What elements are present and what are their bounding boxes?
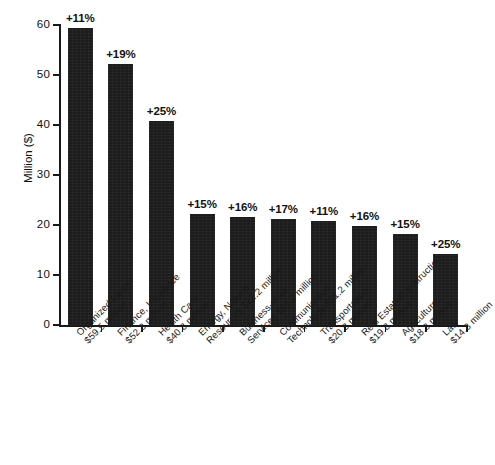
y-tick-mark <box>53 74 60 76</box>
y-tick-label: 20 <box>20 218 50 230</box>
y-tick-mark <box>53 274 60 276</box>
bar-value-label: +25% <box>132 105 192 117</box>
y-tick-mark <box>53 174 60 176</box>
y-tick-mark <box>53 324 60 326</box>
y-tick-label: 30 <box>20 168 50 180</box>
y-tick-mark <box>53 24 60 26</box>
bar-value-label: +19% <box>91 48 151 60</box>
y-tick-label: 0 <box>20 318 50 330</box>
y-tick-mark <box>53 224 60 226</box>
y-tick-label: 50 <box>20 68 50 80</box>
bar-value-label: +11% <box>50 12 110 24</box>
y-tick-label: 10 <box>20 268 50 280</box>
y-axis-title: Million ($) <box>22 98 34 218</box>
y-tick-label: 60 <box>20 18 50 30</box>
bar-value-label: +15% <box>375 218 435 230</box>
y-tick-mark <box>53 124 60 126</box>
bar <box>68 28 93 326</box>
bar-value-label: +25% <box>416 238 476 250</box>
y-tick-label: 40 <box>20 118 50 130</box>
